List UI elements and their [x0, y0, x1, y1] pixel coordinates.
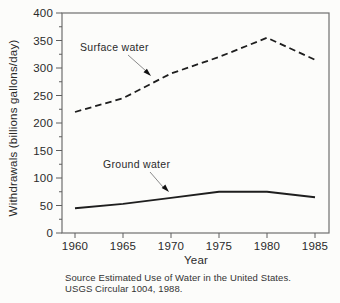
y-tick-label: 100: [33, 172, 53, 184]
ground-water-arrow-shaft: [150, 172, 163, 187]
y-tick-label: 250: [33, 90, 53, 102]
y-tick-label: 200: [33, 117, 53, 129]
y-tick-label: 150: [33, 145, 53, 157]
ground-water-label: Ground water: [103, 158, 170, 170]
source-note-line1: Source Estimated Use of Water in the Uni…: [65, 272, 291, 283]
series-lines: [75, 38, 315, 209]
x-tick-label: 1965: [110, 240, 136, 252]
y-axis: 050100150200250300350400: [33, 7, 62, 239]
annotation-surface-water: Surface water: [80, 41, 151, 76]
annotation-ground-water: Ground water: [103, 158, 170, 192]
y-tick-label: 50: [40, 200, 53, 212]
surface-water-arrow-shaft: [128, 55, 146, 71]
y-axis-title: Withdrawals (billions gallons/day): [7, 40, 19, 217]
y-tick-label: 300: [33, 62, 53, 74]
source-note-line2: USGS Circular 1004, 1988.: [65, 283, 183, 294]
x-tick-label: 1985: [302, 240, 328, 252]
y-tick-label: 400: [33, 7, 53, 19]
x-tick-label: 1975: [206, 240, 232, 252]
y-tick-label: 0: [46, 227, 53, 239]
x-tick-label: 1960: [62, 240, 88, 252]
figure: 050100150200250300350400 196019651970197…: [0, 0, 340, 303]
x-tick-label: 1980: [254, 240, 280, 252]
x-axis-title: Year: [184, 254, 208, 266]
ground-water-line: [75, 192, 315, 209]
x-tick-label: 1970: [158, 240, 184, 252]
y-tick-label: 350: [33, 35, 53, 47]
x-axis: 196019651970197519801985: [62, 233, 328, 252]
ground-water-arrowhead-icon: [162, 185, 169, 193]
withdrawals-chart: 050100150200250300350400 196019651970197…: [0, 0, 340, 303]
surface-water-label: Surface water: [80, 41, 149, 53]
